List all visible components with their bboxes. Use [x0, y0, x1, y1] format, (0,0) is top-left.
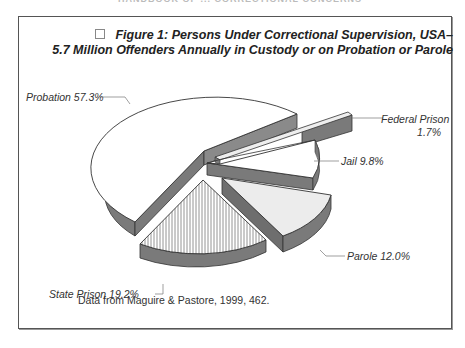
label-parole: Parole 12.0%	[347, 250, 410, 262]
label-federal-prison-value: 1.7%	[417, 126, 441, 138]
label-jail: Jail 9.8%	[341, 155, 384, 167]
label-federal-prison-name: Federal Prison	[381, 113, 441, 125]
figure-source: Data from Maguire & Pastore, 1999, 462.	[78, 294, 269, 306]
label-probation: Probation 57.3%	[26, 91, 104, 103]
